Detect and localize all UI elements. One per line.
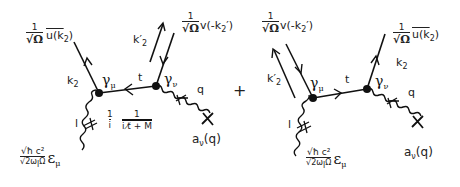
right-positron-momentum-label: k′2 [267, 73, 281, 87]
right-photon-momentum-label: l [288, 119, 291, 130]
left-k2prime-momentum-arrow [150, 24, 163, 62]
right-vertex-2 [363, 85, 371, 93]
right-q-label: q [408, 87, 415, 98]
left-positron-prefactor: 1 √Ω [182, 12, 199, 34]
right-external-field-cross-icon [412, 116, 423, 128]
left-positron-momentum-label: k′2 [133, 34, 147, 48]
right-field-label: aν(q) [404, 146, 433, 161]
right-diagram [272, 34, 423, 156]
right-vertex-1-label: γμ [310, 76, 324, 93]
left-q-label: q [197, 84, 204, 95]
left-electron-prefactor: 1 √Ω [26, 23, 43, 45]
right-photon-amplitude: √ħ c² √2ωlΩ εμ [306, 148, 346, 170]
right-electron-spinor: u(k2) [412, 29, 439, 43]
right-positron-prefactor: 1 √Ω [262, 12, 279, 34]
left-propagator-factor: 1 i [106, 110, 114, 130]
right-vertex-1 [309, 94, 317, 102]
left-vertex-2-label: γν [164, 72, 177, 89]
right-vertex-2-label: γν [375, 74, 388, 91]
left-propagator-denominator: 1 i t̸ + M [122, 110, 152, 131]
left-propagator-momentum-label: t [138, 72, 142, 83]
left-external-field-cross-icon [202, 113, 213, 125]
left-positron-spinor: v(-k2′) [200, 20, 233, 34]
right-electron-prefactor: 1 √Ω [393, 23, 410, 45]
left-vertex-1 [95, 89, 103, 97]
left-field-label: aν(q) [192, 133, 221, 148]
right-polarization: εμ [333, 150, 346, 169]
left-photon-amplitude: √ħ c² √2ωlΩ εμ [20, 147, 60, 169]
left-electron-spinor: u(k2) [46, 30, 73, 44]
left-electron-momentum-label: k2 [67, 75, 78, 89]
left-vertex-1-label: γμ [102, 73, 116, 90]
left-polarization: εμ [47, 149, 60, 168]
left-vertex-2 [152, 82, 160, 90]
left-photon-momentum-label: l [75, 118, 78, 129]
right-propagator-momentum-label: t [345, 74, 349, 85]
right-positron-spinor: v(-k2′) [280, 20, 313, 34]
right-electron-momentum-label: k2 [396, 57, 407, 71]
plus-operator: + [233, 81, 246, 100]
